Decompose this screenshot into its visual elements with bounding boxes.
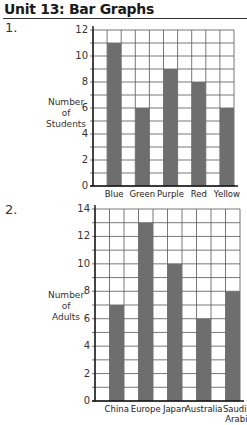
- y-tick-label: 10: [74, 259, 90, 269]
- y-tick-label: 2: [72, 155, 88, 165]
- bar-chart-adults: [0, 0, 247, 425]
- bar-japan: [168, 264, 183, 401]
- y-tick-label: 6: [72, 103, 88, 113]
- y-tick-label: 8: [72, 77, 88, 87]
- y-tick-label: 6: [74, 314, 90, 324]
- y-tick-label: 4: [72, 129, 88, 139]
- y-tick-label: 14: [74, 204, 90, 214]
- bar-australia: [197, 319, 212, 401]
- y-tick-label: 4: [74, 341, 90, 351]
- y-tick-label: 0: [72, 181, 88, 191]
- y-tick-label: 12: [74, 231, 90, 241]
- bar-saudi-arabia: [226, 291, 241, 401]
- y-tick-label: 10: [72, 51, 88, 61]
- x-category-label: Yellow: [205, 189, 247, 199]
- bar-europe: [139, 223, 154, 401]
- y-tick-label: 12: [72, 25, 88, 35]
- y-tick-label: 0: [74, 396, 90, 406]
- bar-china: [110, 305, 125, 401]
- x-category-label: SaudiArabia: [217, 404, 247, 424]
- y-tick-label: 8: [74, 286, 90, 296]
- y-tick-label: 2: [74, 369, 90, 379]
